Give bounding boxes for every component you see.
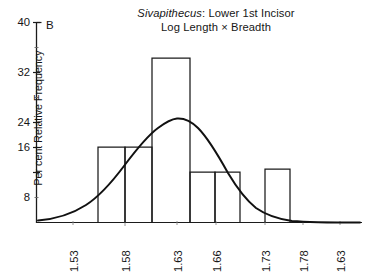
panel-letter: B [46,19,54,31]
chart-title-line1: Sivapithecus: Lower 1st Incisor [96,6,336,20]
x-tick-label-7: 1.63 [335,250,347,272]
chart-canvas [0,0,368,280]
histogram-bars [98,58,290,223]
y-tick-label-32: 32 [4,66,30,78]
x-tick-label-3: 1.63 [172,250,184,272]
genus-name: Sivapithecus [137,7,202,19]
x-tick-label-4: 1.66 [211,250,223,272]
x-tick-label-2: 1.58 [120,250,132,272]
x-tick-label-5: 1.73 [260,250,272,272]
y-tick-label-24: 24 [4,116,30,128]
y-tick-label-8: 8 [4,191,30,203]
histogram-bar [98,147,125,223]
histogram-bar [215,172,240,223]
x-tick-label-6: 1.78 [298,250,310,272]
figure-panel: Sivapithecus: Lower 1st Incisor Log Leng… [0,0,368,280]
y-axis-label: Per cent Relative Frequency [32,33,44,203]
chart-title-rest: : Lower 1st Incisor [202,7,295,19]
histogram-bar [190,172,215,223]
x-tick-label-1: 1.53 [68,250,80,272]
chart-title: Sivapithecus: Lower 1st Incisor Log Leng… [96,6,336,35]
histogram-bar [152,58,190,223]
chart-title-line2: Log Length × Breadth [96,20,336,34]
y-tick-label-16: 16 [4,141,30,153]
y-tick-label-40: 40 [4,16,30,28]
normal-curve-overlay [38,118,360,222]
